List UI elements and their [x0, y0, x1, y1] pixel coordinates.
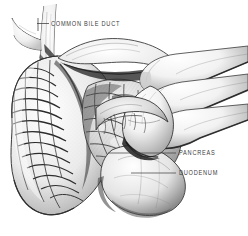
illustration-canvas [0, 0, 248, 236]
label-pancreas: PANCREAS [179, 150, 216, 156]
label-common-bile-duct: COMMON BILE DUCT [51, 21, 120, 27]
anatomical-figure: COMMON BILE DUCT PANCREAS DUODENUM [0, 0, 248, 236]
label-duodenum: DUODENUM [179, 170, 218, 176]
